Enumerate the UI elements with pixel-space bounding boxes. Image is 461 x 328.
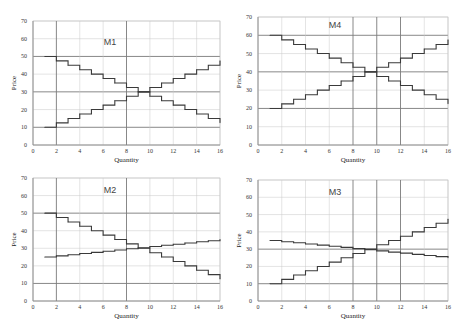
y-tick-label: 50: [21, 210, 27, 216]
demand-point: [281, 39, 282, 40]
y-tick-label: 20: [246, 263, 252, 269]
chart-m4: 0102030405060700246810121416M4QuantityPr…: [235, 14, 451, 164]
demand-point: [126, 243, 127, 244]
demand-point: [161, 257, 162, 258]
demand-point: [208, 118, 209, 119]
supply-point: [196, 69, 197, 70]
demand-point: [220, 122, 221, 123]
demand-point: [173, 261, 174, 262]
supply-point: [364, 249, 365, 250]
x-tick-label: 14: [194, 304, 200, 310]
demand-point: [220, 279, 221, 280]
supply-point: [329, 262, 330, 263]
x-tick-label: 6: [328, 148, 331, 154]
supply-point: [305, 270, 306, 271]
supply-point: [173, 244, 174, 245]
y-tick-label: 40: [246, 229, 252, 235]
supply-point: [126, 248, 127, 249]
supply-point: [388, 240, 389, 241]
demand-point: [436, 256, 437, 257]
x-tick-label: 12: [170, 304, 176, 310]
supply-point: [424, 49, 425, 50]
supply-point: [400, 236, 401, 237]
supply-point: [353, 76, 354, 77]
supply-point: [376, 67, 377, 68]
demand-point: [196, 270, 197, 271]
supply-point: [305, 94, 306, 95]
supply-point: [185, 243, 186, 244]
demand-point: [341, 62, 342, 63]
demand-point: [196, 114, 197, 115]
chart-m2: 0102030405060700246810121416M2QuantityPr…: [10, 175, 223, 320]
x-tick-label: 4: [78, 304, 81, 310]
supply-point: [91, 252, 92, 253]
supply-point: [448, 218, 449, 219]
demand-point: [103, 78, 104, 79]
demand-point: [353, 248, 354, 249]
demand-point: [173, 105, 174, 106]
supply-point: [329, 85, 330, 86]
y-tick-label: 40: [21, 228, 27, 234]
supply-point: [138, 247, 139, 248]
demand-point: [185, 109, 186, 110]
supply-point: [269, 283, 270, 284]
y-tick-label: 0: [24, 142, 27, 148]
demand-point: [208, 274, 209, 275]
supply-point: [281, 279, 282, 280]
y-tick-label: 20: [21, 107, 27, 113]
x-axis-label: Quantity: [114, 156, 139, 164]
x-tick-label: 4: [78, 148, 81, 154]
demand-point: [149, 252, 150, 253]
supply-point: [103, 105, 104, 106]
x-axis-label: Quantity: [341, 156, 366, 164]
x-tick-label: 16: [445, 148, 451, 154]
y-tick-label: 30: [246, 246, 252, 252]
x-tick-label: 2: [280, 304, 283, 310]
supply-point: [91, 109, 92, 110]
demand-point: [388, 81, 389, 82]
y-tick-label: 60: [246, 32, 252, 38]
supply-point: [114, 250, 115, 251]
demand-point: [448, 257, 449, 258]
demand-point: [412, 254, 413, 255]
x-tick-label: 8: [125, 148, 128, 154]
x-tick-label: 12: [398, 304, 404, 310]
demand-point: [412, 90, 413, 91]
demand-point: [281, 241, 282, 242]
y-tick-label: 20: [246, 105, 252, 111]
x-tick-label: 2: [280, 148, 283, 154]
x-tick-label: 10: [147, 148, 153, 154]
y-tick-label: 50: [21, 53, 27, 59]
demand-point: [56, 217, 57, 218]
y-axis-label: Price: [235, 233, 243, 247]
demand-point: [448, 103, 449, 104]
y-tick-label: 30: [21, 89, 27, 95]
supply-point: [56, 255, 57, 256]
demand-point: [161, 100, 162, 101]
y-tick-label: 30: [21, 245, 27, 251]
supply-point: [79, 114, 80, 115]
demand-point: [126, 87, 127, 88]
x-tick-label: 0: [32, 148, 35, 154]
demand-point: [79, 226, 80, 227]
chart-title: M3: [329, 187, 342, 197]
demand-point: [424, 94, 425, 95]
supply-point: [400, 58, 401, 59]
demand-point: [91, 230, 92, 231]
x-tick-label: 6: [102, 148, 105, 154]
y-tick-label: 0: [249, 142, 252, 148]
demand-point: [269, 35, 270, 36]
x-tick-label: 8: [125, 304, 128, 310]
supply-point: [364, 71, 365, 72]
x-tick-label: 2: [55, 148, 58, 154]
supply-point: [44, 127, 45, 128]
demand-point: [44, 56, 45, 57]
supply-point: [341, 257, 342, 258]
supply-point: [281, 103, 282, 104]
y-tick-label: 50: [246, 51, 252, 57]
supply-point: [161, 83, 162, 84]
supply-point: [353, 253, 354, 254]
supply-point: [68, 118, 69, 119]
chart-m3: 0102030405060700246810121416M3QuantityPr…: [235, 177, 451, 320]
supply-point: [424, 227, 425, 228]
